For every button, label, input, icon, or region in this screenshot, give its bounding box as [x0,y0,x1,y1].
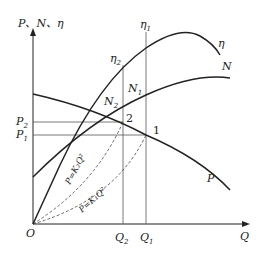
q2-label: Q2 [115,231,129,246]
n-curve-label: N [221,60,232,73]
eta1-label: η1 [140,18,151,33]
eta2-label: η2 [110,52,122,67]
p-curve-label: P [206,172,215,185]
system-curve-k1 [33,135,146,224]
efficiency-curve [33,32,220,224]
origin-label: O [26,227,35,240]
p1-label: P1 [15,128,28,143]
eta-curve-label: η [218,37,225,50]
pressure-curve-p [33,94,230,190]
diagram-canvas: P、N、η Q O P2 P1 Q2 Q1 η1 η2 N1 N2 η N P … [0,0,258,258]
q1-label: Q1 [140,231,154,246]
operating-point-2-label: 2 [126,112,133,125]
n1-label: N1 [127,82,142,97]
x-axis-label: Q [240,230,249,243]
k1-formula-label: P=K₁Q² [76,185,108,216]
operating-point-1-label: 1 [153,124,160,137]
n2-label: N2 [103,95,119,110]
y-axis-label: P、N、η [17,17,64,30]
